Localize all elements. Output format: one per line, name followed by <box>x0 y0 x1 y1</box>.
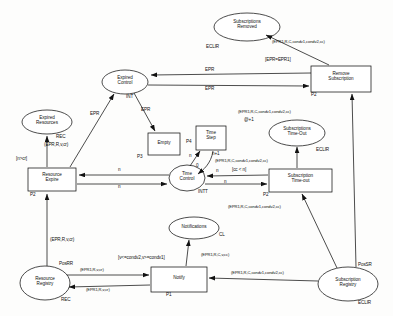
arc-label-timeout-tuple: (EPR1,R,C,condv1,condv2,cc) <box>215 159 268 163</box>
annotation-p2-subscriptiontimeout: P2 <box>263 193 268 198</box>
guard-n-gt-cr: [n>cr] <box>16 157 27 162</box>
arc-label-n-right-upper: n <box>216 169 218 174</box>
annotation-int-expiredcontrol: INT <box>126 95 133 100</box>
guard-epr-equals: [EPR=EPR1] <box>265 58 291 63</box>
arc-subregistry-to-subscriptiontimeout <box>302 194 337 268</box>
arc-expiredcontrol-to-remove <box>148 85 309 86</box>
transition-empty-label: Empty <box>148 141 180 146</box>
place-expired-control-label: ExpiredControl <box>102 76 148 86</box>
arc-label-epr1-r-v-cr-back: (EPR1,R,v,cr) <box>86 288 110 292</box>
annotation-rec-resregistry: REC <box>61 298 70 303</box>
arc-label-epr-lower: EPR <box>205 87 214 92</box>
transition-remove-subscription-label: RemoveSubscription <box>311 72 371 82</box>
arc-timecontrol-to-timestep <box>190 151 200 166</box>
arc-label-n-left-lower: n <box>118 185 120 190</box>
annotation-eclir-subregistry: ECLIR <box>358 301 371 306</box>
arc-label-remove-tuple: (EPR1,R,C,condv1,condv2,cc) <box>238 110 291 114</box>
annotation-p2-remove: P2 <box>311 93 316 98</box>
annotation-posrr-resregistry: PosRR <box>59 262 73 267</box>
annotation-p4-timestep: P4 <box>186 140 191 145</box>
arc-subscriptiontimeout-to-timecontrol <box>207 175 268 176</box>
annotation-intt-timecontrol: INTT <box>198 190 208 195</box>
place-expired-resources-label: ExpiredResources <box>22 116 72 126</box>
transition-resource-expire-label: ResourceExpire <box>28 173 76 183</box>
arc-resourceexpire-to-expiredcontrol <box>70 94 114 167</box>
place-subscriptions-removed-label: SubscriptionsRemoved <box>214 20 280 30</box>
transition-notify-label: Notify <box>151 276 207 281</box>
arc-label-epr-r-v-cr-top: (EPR,R,v,cr) <box>44 143 68 148</box>
place-time-control-label: TimeControl <box>169 172 205 182</box>
transition-time-step-label: TimeStep <box>196 131 226 141</box>
place-notifications-label: Notifications <box>169 225 219 230</box>
guard-cc-lt-n: [cc < n] <box>232 168 246 173</box>
arc-notify-to-notifications <box>186 240 189 266</box>
arc-subregistry-to-notify <box>209 278 318 281</box>
petri-net-canvas <box>0 0 393 316</box>
petri-net-diagram: SubscriptionsRemoved ExpiredControl Expi… <box>0 0 393 316</box>
arc-label-epr-resourceexpire: EPR <box>90 112 99 117</box>
arc-label-at-plus-one: @+1 <box>244 118 254 123</box>
arc-label-zero: 0 <box>196 164 198 169</box>
arc-label-epr-r-v-cr-vertical: (EPR,R,v,cr) <box>50 238 74 243</box>
annotation-cl-notifications: CL <box>219 233 225 238</box>
annotation-p3-empty: P3 <box>137 155 142 160</box>
arc-label-n-plus-one: n+1 <box>212 152 220 157</box>
place-subscription-registry-label: SubscriptionRegistry <box>318 278 378 288</box>
arc-label-subregistry-timeout-tuple: (EPR1,R,C,condv1,condv2,cc) <box>228 205 281 209</box>
annotation-p1-notify: P1 <box>166 293 171 298</box>
arc-label-subsremoved: (EPR1,R,C,condv1,condv2,cc) <box>272 40 325 44</box>
annotation-possr-subregistry: PosSR <box>358 263 372 268</box>
annotation-eclir-substimeout: ECLIR <box>316 148 329 153</box>
arc-label-n-timestep: n <box>189 154 191 159</box>
arc-label-notify-notifications-tuple: (EPR1,R,C,v,cc) <box>201 253 229 257</box>
guard-condv-range: [v<=condv2,v>=condv1] <box>118 256 165 261</box>
transition-subscription-timeout-label: SubscriptionTime-out <box>269 174 332 184</box>
place-resource-registry-label: ResourceRegistry <box>20 277 70 287</box>
arc-label-n-left-upper: n <box>118 168 120 173</box>
arc-label-epr1-r-v-cr-forward: (EPR1,R,v,cr) <box>80 268 104 272</box>
annotation-rec-expiredresources: REC <box>56 135 65 140</box>
annotation-eclir-subsremoved: ECLIR <box>206 45 219 50</box>
arc-label-subregistry-notify-tuple: (EPR1,R,C,condv1,condv2,cc) <box>231 271 284 275</box>
annotation-p2-resourceexpire: P2 <box>30 193 35 198</box>
arc-subregistry-to-remove <box>352 94 356 267</box>
arc-label-epr-empty: EPR <box>141 108 150 113</box>
arc-label-n-right-lower: n <box>224 180 226 185</box>
arc-label-epr-upper: EPR <box>205 68 214 73</box>
place-subscriptions-timeout-label: SubscriptionsTime-Out <box>269 127 325 137</box>
arc-remove-to-expiredcontrol <box>151 73 311 75</box>
